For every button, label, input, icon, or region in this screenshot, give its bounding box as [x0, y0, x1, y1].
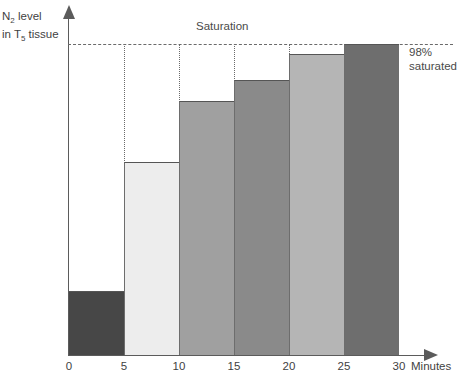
y-axis-label-line-2: in T5 tissue — [2, 26, 66, 44]
bar — [124, 162, 179, 355]
bar — [69, 291, 124, 355]
x-axis-tick-label: 5 — [121, 360, 127, 372]
saturation-level-annotation: 98% saturated — [409, 45, 457, 73]
saturation-percent-text: 98% — [409, 45, 457, 59]
x-axis-tick-label: 15 — [228, 360, 241, 372]
y-axis-arrow-icon — [63, 5, 75, 19]
x-axis-tick-label: 0 — [66, 360, 72, 372]
nitrogen-saturation-bar-chart: N2 level in T5 tissue Saturation 98% sat… — [0, 0, 461, 380]
bar — [234, 80, 289, 355]
y-axis-label: N2 level in T5 tissue — [2, 8, 66, 44]
bar — [289, 54, 344, 355]
y-axis-label-subscript-n2: 2 — [10, 16, 14, 25]
x-axis-tick-label: 20 — [283, 360, 296, 372]
plot-area — [69, 18, 399, 355]
x-axis-tick-label: 10 — [173, 360, 186, 372]
bar — [344, 44, 399, 355]
y-axis-label-line-1: N2 level — [2, 8, 66, 26]
x-axis-title: Minutes — [411, 360, 451, 372]
x-axis-tick-label: 30 — [393, 360, 406, 372]
saturation-word-text: saturated — [409, 59, 457, 73]
y-axis-label-subscript-t5: 5 — [21, 34, 25, 43]
x-axis-tick-label: 25 — [338, 360, 351, 372]
bar — [179, 101, 234, 355]
